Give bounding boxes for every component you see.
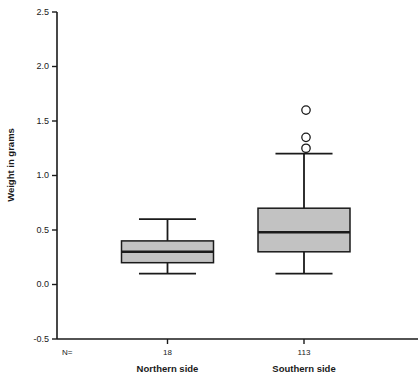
box-plot-chart: 2.52.01.51.00.50.0-0.5Weight in gramsN=1… <box>0 0 420 380</box>
outlier-marker <box>302 133 310 141</box>
y-axis-tick-label: 0.5 <box>36 225 49 235</box>
boxplot-northern <box>122 219 214 274</box>
y-axis-tick-label: 1.5 <box>36 116 49 126</box>
x-axis-category-label: Northern side <box>137 363 199 374</box>
y-axis-tick-label: -0.5 <box>33 334 49 344</box>
y-axis-tick-label: 0.0 <box>36 279 49 289</box>
plot-area: 2.52.01.51.00.50.0-0.5Weight in gramsN=1… <box>0 0 420 380</box>
n-count-label: 18 <box>163 348 172 357</box>
y-axis-tick-label: 1.0 <box>36 170 49 180</box>
outlier-marker <box>302 144 310 152</box>
boxplot-southern <box>258 106 350 274</box>
box-iqr <box>258 208 350 252</box>
outlier-marker <box>302 106 310 114</box>
n-header-label: N= <box>62 348 73 357</box>
n-count-label: 113 <box>298 348 311 357</box>
y-axis-tick-label: 2.5 <box>36 7 49 17</box>
x-axis-category-label: Southern side <box>272 363 335 374</box>
y-axis-tick-label: 2.0 <box>36 61 49 71</box>
y-axis-title: Weight in grams <box>5 128 16 202</box>
